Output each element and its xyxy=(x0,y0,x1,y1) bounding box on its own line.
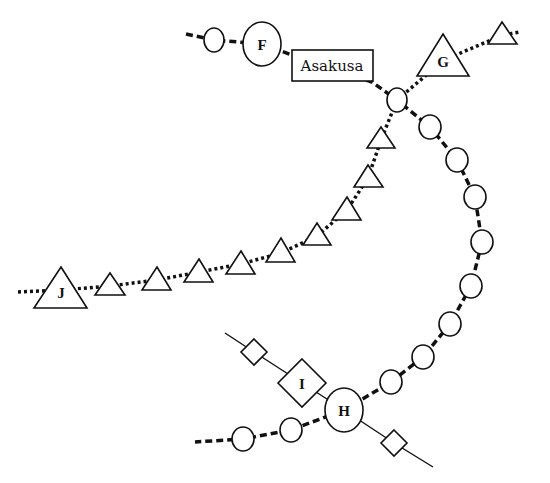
station-triangle[interactable] xyxy=(332,197,361,220)
station-triangle[interactable] xyxy=(354,165,383,187)
station-H[interactable]: H xyxy=(325,388,363,432)
junction-station[interactable] xyxy=(387,88,407,112)
station-G-label: G xyxy=(437,54,449,70)
station-circle[interactable] xyxy=(439,312,461,336)
station-circle[interactable] xyxy=(446,148,468,172)
station-triangle[interactable] xyxy=(142,267,171,290)
transit-diagram: F Asakusa J G I H xyxy=(0,0,550,483)
station-circle[interactable] xyxy=(380,370,402,394)
dashed-line xyxy=(186,34,482,442)
station-circle[interactable] xyxy=(412,345,434,369)
station-asakusa[interactable]: Asakusa xyxy=(292,50,373,81)
station-diamond[interactable] xyxy=(241,339,267,365)
station-H-label: H xyxy=(338,403,350,419)
station-triangle[interactable] xyxy=(488,22,517,44)
station-circle[interactable] xyxy=(464,185,486,209)
station-I[interactable]: I xyxy=(278,359,326,407)
station-circle[interactable] xyxy=(280,418,302,442)
station-G[interactable]: G xyxy=(417,34,469,76)
station-J-label: J xyxy=(57,285,65,301)
station-circle[interactable] xyxy=(460,274,482,298)
station-I-label: I xyxy=(299,376,305,392)
station-triangle[interactable] xyxy=(367,127,395,148)
station-circle[interactable] xyxy=(232,427,254,451)
asakusa-label: Asakusa xyxy=(300,57,364,75)
station-circle[interactable] xyxy=(419,115,441,139)
station-diamond[interactable] xyxy=(381,430,407,456)
station-circle[interactable] xyxy=(204,28,224,52)
station-circle[interactable] xyxy=(471,230,493,254)
station-F-label: F xyxy=(257,37,266,53)
station-F[interactable]: F xyxy=(243,22,281,66)
